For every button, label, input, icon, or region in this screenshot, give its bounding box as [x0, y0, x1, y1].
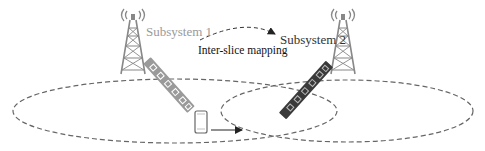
subsystem-2-label: Subsystem 2: [280, 32, 346, 48]
diagram-canvas: [0, 0, 485, 151]
phone-icon: [195, 111, 207, 133]
inter-slice-mapping-label: Inter-slice mapping: [198, 44, 288, 56]
antenna-array-1-icon: [143, 57, 195, 113]
base-station-tower-1-icon: [121, 9, 145, 74]
subsystem-1-label: Subsystem 1: [146, 24, 212, 40]
coverage-area-2: [221, 80, 473, 142]
antenna-array-2-icon: [279, 61, 333, 120]
